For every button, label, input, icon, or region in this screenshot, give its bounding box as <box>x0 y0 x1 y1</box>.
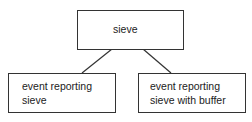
node-event-reporting-sieve-with-buffer: event reporting sieve with buffer <box>138 73 246 113</box>
node-left-label-line1: event reporting <box>22 80 92 93</box>
node-event-reporting-sieve: event reporting sieve <box>8 73 116 113</box>
node-right-label-line1: event reporting <box>150 80 220 93</box>
node-sieve: sieve <box>77 10 184 50</box>
node-left-label-line2: sieve <box>22 94 47 107</box>
edge-root-right <box>143 49 171 73</box>
edge-root-left <box>82 49 112 73</box>
node-sieve-label: sieve <box>113 23 138 36</box>
node-right-label-line2: sieve with buffer <box>150 94 226 107</box>
